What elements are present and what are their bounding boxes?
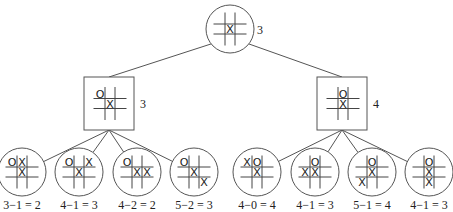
- game-tree-diagram: X3OX3OX4OXX3−1 = 2OXX4−1 = 3OXX4−2 = 2OX…: [0, 0, 453, 212]
- evaluation-equation: 4−0 = 4: [238, 198, 276, 212]
- x-mark: X: [368, 166, 376, 179]
- x-mark: X: [243, 156, 251, 169]
- tree-nodes: X3OX3OX4OXX3−1 = 2OXX4−1 = 3OXX4−2 = 2OX…: [0, 5, 453, 212]
- evaluation-equation: 4−1 = 3: [410, 198, 448, 212]
- x-mark: X: [133, 166, 141, 179]
- x-mark: X: [301, 166, 309, 179]
- x-mark: X: [18, 166, 26, 179]
- evaluation-equation: 4−2 = 2: [118, 198, 156, 212]
- x-mark: X: [143, 166, 151, 179]
- x-mark: X: [253, 166, 261, 179]
- o-mark: O: [8, 156, 17, 169]
- x-mark: X: [85, 156, 93, 169]
- x-mark: X: [106, 98, 114, 111]
- node-value: 3: [140, 97, 146, 111]
- min-node-2: OX4: [317, 77, 379, 130]
- node-value: 3: [257, 23, 263, 37]
- leaf-node-1: OXX3−1 = 2: [0, 148, 46, 212]
- x-mark: X: [425, 176, 433, 189]
- leaf-node-5: XOX4−0 = 4: [233, 148, 281, 212]
- x-mark: X: [200, 176, 208, 189]
- x-mark: X: [190, 166, 198, 179]
- o-mark: O: [180, 156, 189, 169]
- o-mark: O: [123, 156, 132, 169]
- x-mark: X: [311, 166, 319, 179]
- leaf-node-7: OXX5−1 = 4: [348, 148, 396, 212]
- o-mark: O: [96, 88, 105, 101]
- x-mark: X: [75, 166, 83, 179]
- o-mark: O: [65, 156, 74, 169]
- node-value: 4: [373, 97, 379, 111]
- x-mark: X: [358, 176, 366, 189]
- evaluation-equation: 5−1 = 4: [353, 198, 391, 212]
- evaluation-equation: 3−1 = 2: [3, 198, 41, 212]
- leaf-node-8: OXX4−1 = 3: [405, 148, 453, 212]
- tree-edge: [109, 44, 211, 77]
- min-node-1: OX3: [84, 77, 146, 130]
- tree-edge: [249, 44, 342, 77]
- evaluation-equation: 5−2 = 3: [175, 198, 213, 212]
- evaluation-equation: 4−1 = 3: [296, 198, 334, 212]
- x-mark: X: [339, 98, 347, 111]
- leaf-node-4: OXX5−2 = 3: [170, 148, 218, 212]
- leaf-node-2: OXX4−1 = 3: [55, 148, 103, 212]
- leaf-node-3: OXX4−2 = 2: [113, 148, 161, 212]
- game-tree-svg: X3OX3OX4OXX3−1 = 2OXX4−1 = 3OXX4−2 = 2OX…: [0, 0, 453, 212]
- x-mark: X: [226, 23, 234, 36]
- leaf-node-6: OXX4−1 = 3: [291, 148, 339, 212]
- evaluation-equation: 4−1 = 3: [60, 198, 98, 212]
